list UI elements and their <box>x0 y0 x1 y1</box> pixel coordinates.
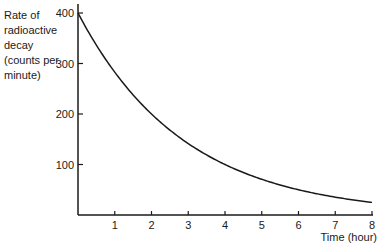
y-tick-label: 200 <box>56 108 74 120</box>
x-tick-label: 2 <box>148 219 154 231</box>
x-tick-label: 6 <box>295 219 301 231</box>
x-tick-label: 3 <box>185 219 191 231</box>
decay-chart: 12345678100200300400 <box>0 0 381 246</box>
y-tick-label: 100 <box>56 159 74 171</box>
axes <box>78 4 373 215</box>
x-tick-label: 1 <box>112 219 118 231</box>
decay-curve-line <box>78 13 372 202</box>
x-tick-label: 7 <box>332 219 338 231</box>
x-tick-label: 8 <box>369 219 375 231</box>
y-tick-label: 300 <box>56 58 74 70</box>
x-tick-label: 4 <box>222 219 228 231</box>
x-tick-label: 5 <box>259 219 265 231</box>
ticks: 12345678100200300400 <box>56 7 375 231</box>
y-tick-label: 400 <box>56 7 74 19</box>
